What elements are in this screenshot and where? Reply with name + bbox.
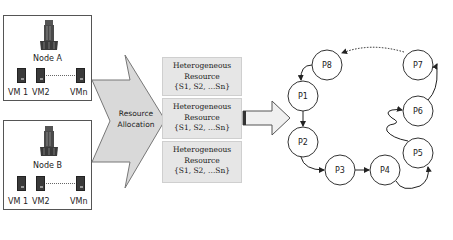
process-p2-label: P2 bbox=[298, 138, 308, 147]
process-p1-label: P1 bbox=[298, 92, 308, 101]
edge-p8-p1 bbox=[301, 65, 312, 80]
process-p7-label: P7 bbox=[413, 61, 423, 70]
edge-p2-p3 bbox=[301, 157, 324, 170]
process-p5-label: P5 bbox=[413, 149, 423, 158]
resource-box-3: Heterogeneous Resource {S1, S2, ...Sn} bbox=[162, 141, 242, 183]
process-p6-label: P6 bbox=[413, 107, 423, 116]
hollow-block-arrow bbox=[243, 101, 290, 135]
process-p8-label: P8 bbox=[322, 61, 332, 70]
resource-box-1: Heterogeneous Resource {S1, S2, ...Sn} bbox=[162, 57, 242, 96]
edge-p7-p8 bbox=[342, 47, 404, 53]
process-p3-label: P3 bbox=[335, 166, 345, 175]
resource-box-2: Heterogeneous Resource {S1, S2, ...Sn} bbox=[162, 98, 242, 139]
resource-allocation-label: Resource Allocation bbox=[108, 108, 164, 130]
edge-p4-p5 bbox=[396, 167, 428, 189]
process-p4-label: P4 bbox=[380, 166, 390, 175]
